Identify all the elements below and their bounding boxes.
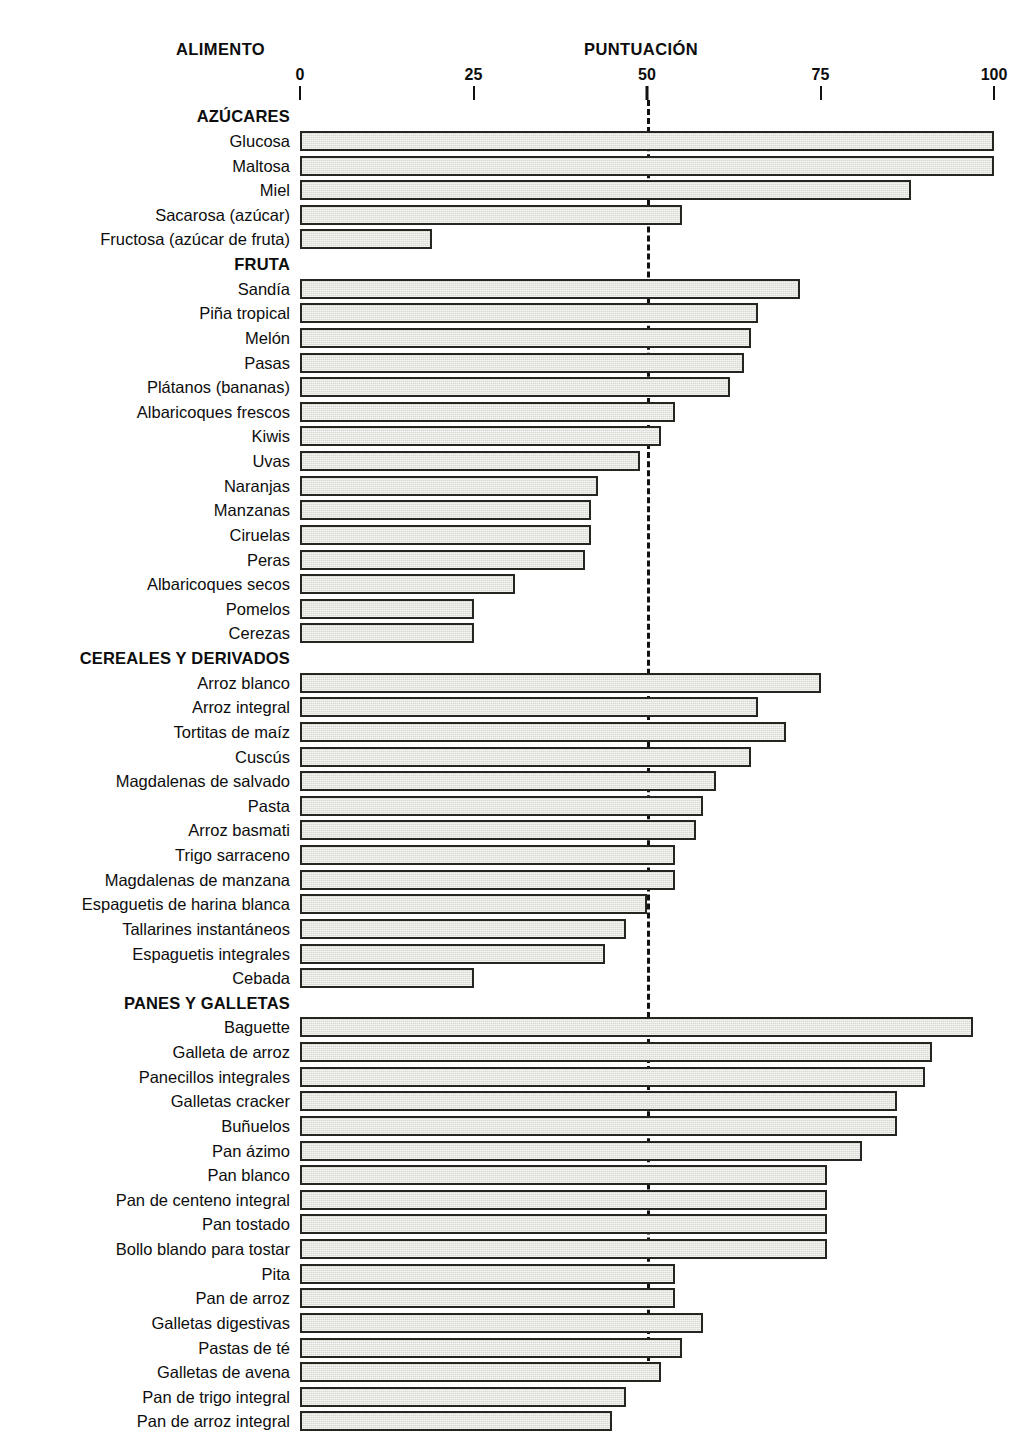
section-header-label: CEREALES Y DERIVADOS xyxy=(80,650,290,667)
bar-row: Maltosa xyxy=(0,153,1033,178)
bar xyxy=(300,1239,827,1259)
bar xyxy=(300,156,994,176)
bar-row: Galletas de avena xyxy=(0,1360,1033,1385)
axis-tick-mark-50 xyxy=(646,86,649,100)
bar xyxy=(300,426,661,446)
bar-row: Pan de arroz integral xyxy=(0,1409,1033,1434)
bar-row-label: Melón xyxy=(245,330,290,347)
bar xyxy=(300,574,515,594)
bar-row-label: Sacarosa (azúcar) xyxy=(155,207,290,224)
bar-row: Pan de centeno integral xyxy=(0,1188,1033,1213)
bar-row: Manzanas xyxy=(0,498,1033,523)
bar-row: Cebada xyxy=(0,966,1033,991)
bar-row-label: Galletas cracker xyxy=(171,1093,290,1110)
bar-row-label: Pan de arroz xyxy=(196,1290,290,1307)
bar xyxy=(300,673,821,693)
bar-row: Pita xyxy=(0,1261,1033,1286)
bar-row-label: Piña tropical xyxy=(199,305,290,322)
bar-row-label: Buñuelos xyxy=(221,1118,290,1135)
bar-row: Piña tropical xyxy=(0,301,1033,326)
axis-tick-label-25: 25 xyxy=(465,66,483,84)
bar-row: Albaricoques frescos xyxy=(0,400,1033,425)
bar xyxy=(300,279,800,299)
axis-tick-mark-25 xyxy=(473,86,475,100)
bar xyxy=(300,328,751,348)
bar-row-label: Espaguetis integrales xyxy=(132,945,290,962)
bar xyxy=(300,1042,932,1062)
bar-row-label: Miel xyxy=(260,182,290,199)
bar-row: Tallarines instantáneos xyxy=(0,917,1033,942)
bar xyxy=(300,1411,612,1431)
bar xyxy=(300,1313,703,1333)
bar-row-label: Fructosa (azúcar de fruta) xyxy=(100,231,290,248)
bar xyxy=(300,550,585,570)
bar xyxy=(300,623,474,643)
bar-row-label: Kiwis xyxy=(251,428,290,445)
bar-row-label: Magdalenas de salvado xyxy=(116,773,290,790)
score-column-header: PUNTUACIÓN xyxy=(584,40,698,59)
bar-row: Buñuelos xyxy=(0,1114,1033,1139)
bar-row-label: Trigo sarraceno xyxy=(175,847,290,864)
axis-tick-mark-75 xyxy=(820,86,822,100)
bar-row: Plátanos (bananas) xyxy=(0,375,1033,400)
bar xyxy=(300,229,432,249)
bar-row-label: Arroz integral xyxy=(192,699,290,716)
section-header-row: AZÚCARES xyxy=(0,104,1033,129)
bar-row: Magdalenas de salvado xyxy=(0,769,1033,794)
bar-row: Cuscús xyxy=(0,744,1033,769)
bar-row-label: Espaguetis de harina blanca xyxy=(82,896,290,913)
bar-row: Pasas xyxy=(0,350,1033,375)
bar-row: Galletas digestivas xyxy=(0,1311,1033,1336)
bar-row: Cerezas xyxy=(0,621,1033,646)
bar xyxy=(300,377,730,397)
bar-row-label: Baguette xyxy=(224,1019,290,1036)
bar xyxy=(300,500,591,520)
bar xyxy=(300,870,675,890)
bar-row: Kiwis xyxy=(0,424,1033,449)
bar-row: Ciruelas xyxy=(0,523,1033,548)
bar xyxy=(300,205,682,225)
section-header-label: AZÚCARES xyxy=(197,108,290,125)
bar-row: Fructosa (azúcar de fruta) xyxy=(0,227,1033,252)
bar-row-label: Pasta xyxy=(248,798,290,815)
bar-row-label: Manzanas xyxy=(214,502,290,519)
bar-row-label: Pastas de té xyxy=(198,1339,290,1356)
bar-row-label: Pan de trigo integral xyxy=(142,1389,290,1406)
bar xyxy=(300,1190,827,1210)
bar-row-label: Pan blanco xyxy=(207,1167,290,1184)
bar-row: Uvas xyxy=(0,449,1033,474)
bar-row-label: Tortitas de maíz xyxy=(174,724,290,741)
axis-tick-mark-0 xyxy=(299,86,301,100)
bar-row-label: Pomelos xyxy=(226,601,290,618)
bar-row: Arroz blanco xyxy=(0,670,1033,695)
section-header-row: FRUTA xyxy=(0,252,1033,277)
bar-row: Arroz basmati xyxy=(0,818,1033,843)
bar xyxy=(300,722,786,742)
axis-tick-label-50: 50 xyxy=(638,66,656,84)
bar xyxy=(300,131,994,151)
bar-row-label: Arroz basmati xyxy=(188,822,290,839)
bar-row-label: Cebada xyxy=(232,970,290,987)
axis-tick-label-75: 75 xyxy=(812,66,830,84)
bar-row: Melón xyxy=(0,326,1033,351)
bar-row: Bollo blando para tostar xyxy=(0,1237,1033,1262)
bar-rows-container: AZÚCARESGlucosaMaltosaMielSacarosa (azúc… xyxy=(0,104,1033,1434)
bar-row-label: Albaricoques secos xyxy=(147,576,290,593)
bar-row-label: Cerezas xyxy=(229,625,290,642)
bar-row: Pomelos xyxy=(0,597,1033,622)
bar xyxy=(300,525,591,545)
bar xyxy=(300,1264,675,1284)
axis-tick-label-100: 100 xyxy=(981,66,1008,84)
bar-row: Pan tostado xyxy=(0,1212,1033,1237)
bar xyxy=(300,353,744,373)
bar-row: Pan de arroz xyxy=(0,1286,1033,1311)
bar xyxy=(300,820,696,840)
bar-row: Pan ázimo xyxy=(0,1138,1033,1163)
bar-row-label: Maltosa xyxy=(232,157,290,174)
bar-row-label: Sandía xyxy=(238,280,290,297)
section-header-row: PANES Y GALLETAS xyxy=(0,991,1033,1016)
bar-row: Glucosa xyxy=(0,129,1033,154)
section-header-label: PANES Y GALLETAS xyxy=(124,995,290,1012)
bar xyxy=(300,747,751,767)
bar-row: Galleta de arroz xyxy=(0,1040,1033,1065)
